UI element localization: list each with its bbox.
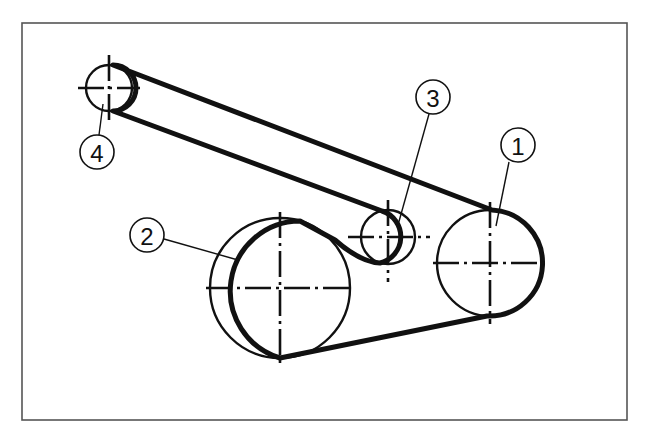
callout-label-4: 4 bbox=[90, 140, 103, 167]
pulley-outlines bbox=[86, 65, 543, 358]
callout-3: 3 bbox=[398, 80, 450, 225]
diagram-frame bbox=[22, 23, 627, 420]
belt-drive-diagram: 1 2 3 4 bbox=[0, 0, 653, 436]
callout-label-2: 2 bbox=[140, 223, 153, 250]
callout-label-3: 3 bbox=[426, 85, 439, 112]
callout-label-1: 1 bbox=[511, 133, 524, 160]
leader-line-1 bbox=[496, 162, 509, 226]
leader-line-3 bbox=[398, 114, 429, 225]
callout-2: 2 bbox=[130, 218, 238, 260]
